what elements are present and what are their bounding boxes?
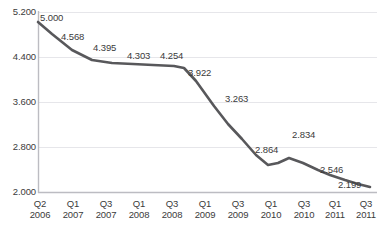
data-label-5: 3.922 bbox=[188, 68, 211, 78]
y-tick-label-0: 5.200 bbox=[2, 7, 36, 17]
data-label-1: 4.568 bbox=[61, 32, 84, 42]
x-tick-label-10: Q3 2011 bbox=[346, 198, 377, 220]
data-label-8: 2.834 bbox=[292, 130, 315, 140]
data-label-9: 2.546 bbox=[320, 165, 343, 175]
x-tick-quarter: Q3 bbox=[346, 198, 377, 209]
data-label-0: 5.000 bbox=[40, 13, 63, 23]
data-label-4: 4.254 bbox=[160, 51, 183, 61]
line-chart: 5.200 4.400 3.600 2.800 2.000 Q2 2006 Q1… bbox=[0, 0, 377, 225]
data-label-3: 4.303 bbox=[127, 51, 150, 61]
data-label-7: 2.864 bbox=[255, 145, 278, 155]
data-label-6: 3.263 bbox=[225, 94, 248, 104]
y-tick-label-3: 2.800 bbox=[2, 142, 36, 152]
gridlines bbox=[38, 13, 377, 148]
x-tick-year: 2011 bbox=[346, 209, 377, 220]
y-tick-label-1: 4.400 bbox=[2, 52, 36, 62]
plot-area bbox=[0, 0, 377, 225]
y-tick-label-2: 3.600 bbox=[2, 97, 36, 107]
data-label-10: 2.199 bbox=[338, 180, 361, 190]
data-label-2: 4.395 bbox=[93, 43, 116, 53]
y-tick-label-4: 2.000 bbox=[2, 187, 36, 197]
data-line bbox=[38, 22, 370, 187]
